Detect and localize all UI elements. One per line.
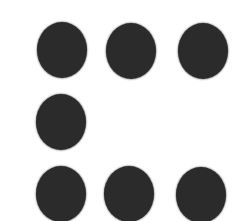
dot-row1-col3 (178, 23, 228, 79)
dot-row3-col2 (104, 166, 154, 221)
dot-row1-col1 (37, 22, 87, 78)
dot-row1-col2 (106, 23, 156, 79)
dot-row2-col1 (36, 94, 86, 150)
dot-row3-col1 (36, 166, 86, 221)
dot-row3-col3 (176, 167, 226, 221)
